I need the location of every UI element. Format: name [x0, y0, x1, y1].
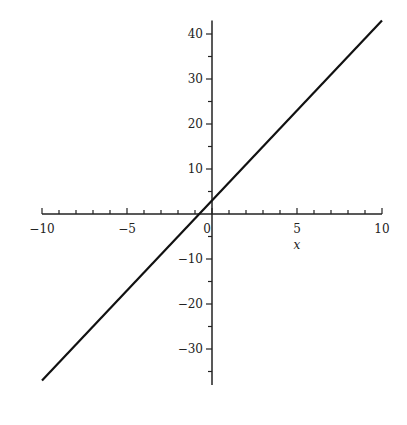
y-tick-label: −30: [178, 342, 203, 356]
x-tick-label: −10: [29, 222, 54, 236]
y-tick-label: 20: [188, 117, 203, 131]
y-tick-label: 40: [188, 27, 203, 41]
x-tick-label: 0: [203, 222, 211, 236]
line-chart: −10−50510−30−20−1010203040 x: [0, 0, 407, 425]
x-axis-label: x: [294, 238, 301, 252]
x-tick-label: 5: [293, 222, 301, 236]
y-tick-label: 30: [188, 72, 203, 86]
y-tick-label: −10: [178, 252, 203, 266]
x-tick-label: −5: [118, 222, 136, 236]
y-tick-label: 10: [188, 162, 203, 176]
y-tick-label: −20: [178, 297, 203, 311]
x-tick-label: 10: [374, 222, 389, 236]
